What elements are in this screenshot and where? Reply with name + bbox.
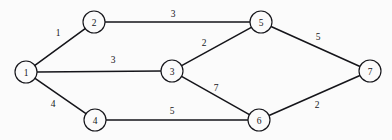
edge-weight-label-5-7: 5 <box>316 32 321 42</box>
graph-node-5: 5 <box>250 11 272 33</box>
edge-weight-label-2-5: 3 <box>171 9 176 19</box>
edge-weight-label-1-2: 1 <box>56 28 61 38</box>
graph-node-3: 3 <box>161 60 183 82</box>
node-label-2: 2 <box>92 18 97 28</box>
edge-weight-label-1-3: 3 <box>111 55 116 65</box>
edge-weight-label-1-4: 4 <box>51 99 56 109</box>
edge-weight-label-3-6: 7 <box>214 83 219 93</box>
edge-weight-label-6-7: 2 <box>315 100 320 110</box>
node-label-4: 4 <box>93 116 98 126</box>
graph-node-6: 6 <box>248 109 270 131</box>
edge-weight-label-3-5: 2 <box>202 38 207 48</box>
graph-edge-3-5 <box>182 27 252 65</box>
graph-edge-1-3 <box>37 71 161 72</box>
node-label-3: 3 <box>170 67 175 77</box>
graph-diagram: 133254752 1234567 <box>0 0 392 140</box>
graph-edge-1-4 <box>35 78 86 113</box>
edges-layer <box>35 22 360 120</box>
node-label-1: 1 <box>24 68 29 78</box>
node-label-7: 7 <box>368 67 373 77</box>
graph-canvas: 133254752 1234567 <box>0 0 392 140</box>
node-label-5: 5 <box>259 18 264 28</box>
edge-weight-label-4-6: 5 <box>170 106 175 116</box>
graph-node-4: 4 <box>84 109 106 131</box>
node-label-6: 6 <box>257 116 262 126</box>
graph-node-7: 7 <box>359 60 381 82</box>
graph-node-2: 2 <box>83 11 105 33</box>
graph-node-1: 1 <box>15 61 37 83</box>
